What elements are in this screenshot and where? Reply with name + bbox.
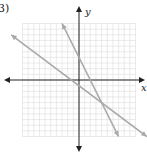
- y-axis-down-arrow-icon: [76, 146, 82, 152]
- coordinate-plane: [0, 0, 147, 156]
- x-axis-right-arrow-icon: [139, 77, 145, 83]
- x-axis-left-arrow-icon: [4, 77, 10, 83]
- y-axis-up-arrow-icon: [76, 6, 82, 12]
